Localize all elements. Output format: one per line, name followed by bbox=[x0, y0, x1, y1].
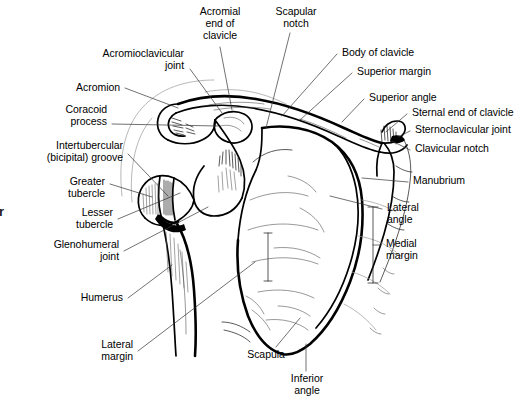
label-humerus: Humerus bbox=[81, 292, 123, 304]
label-sternal-end-of-clavicle: Sternal end of clavicle bbox=[412, 107, 514, 119]
label-scapula: Scapula bbox=[247, 349, 285, 361]
lateral-margin-bracket bbox=[264, 233, 272, 281]
leader-body-of-clavicle bbox=[282, 54, 337, 116]
scapula-inferior-detail bbox=[222, 296, 270, 342]
label-inferior-angle: Inferior angle bbox=[291, 373, 323, 397]
label-acromion: Acromion bbox=[76, 82, 120, 94]
leader-coracoid-process bbox=[112, 124, 218, 126]
surgical-neck-dark-band bbox=[155, 214, 186, 232]
shoulder-girdle-illustration: .ol { fill:none; stroke:#000; stroke-wid… bbox=[0, 0, 531, 403]
label-sternoclavicular-joint: Sternoclavicular joint bbox=[415, 124, 511, 136]
label-clavicular-notch: Clavicular notch bbox=[415, 143, 489, 155]
greater-tubercle-shading bbox=[143, 183, 158, 214]
scapular-spine-and-glenoid bbox=[193, 120, 244, 216]
manubrium-and-sternum bbox=[368, 126, 412, 334]
label-lateral-margin: Lateral margin bbox=[101, 339, 133, 363]
leader-lesser-tubercle bbox=[118, 193, 180, 219]
label-acromioclavicular-joint: Acromioclavicular joint bbox=[103, 48, 184, 72]
scapula-body bbox=[237, 127, 362, 355]
humerus-shaft bbox=[161, 216, 196, 356]
label-greater-tubercle: Greater tubercle bbox=[68, 176, 105, 200]
leader-superior-angle bbox=[342, 99, 364, 122]
label-superior-margin: Superior margin bbox=[357, 66, 431, 78]
humeral-head-and-tubercles bbox=[138, 176, 194, 226]
leader-lines bbox=[110, 33, 410, 371]
label-scapular-notch: Scapular notch bbox=[275, 6, 316, 30]
figure-corner-mark: r bbox=[0, 204, 4, 219]
anatomical-figure: .ol { fill:none; stroke:#000; stroke-wid… bbox=[0, 0, 531, 403]
label-lesser-tubercle: Lesser tubercle bbox=[76, 207, 113, 231]
leader-manubrium bbox=[362, 178, 408, 182]
intertubercular-groove-hatching bbox=[164, 180, 172, 215]
leader-humerus bbox=[128, 265, 172, 298]
leader-acromion bbox=[125, 88, 178, 108]
acromioclavicular-hatching bbox=[172, 118, 195, 135]
glenoid-shading bbox=[218, 168, 236, 192]
label-superior-angle: Superior angle bbox=[369, 92, 437, 104]
label-coracoid-process: Coracoid process bbox=[65, 104, 107, 128]
leader-acromial-end-of-clavicle bbox=[220, 47, 232, 110]
label-glenohumeral-joint: Glenohumeral joint bbox=[54, 239, 119, 263]
label-intertubercular-groove: Intertubercular (bicipital) groove bbox=[47, 140, 123, 164]
label-medial-margin: Medial margin bbox=[386, 238, 418, 262]
label-body-of-clavicle: Body of clavicle bbox=[342, 47, 414, 59]
label-acromial-end-of-clavicle: Acromial end of clavicle bbox=[200, 6, 240, 41]
leader-superior-margin bbox=[300, 73, 352, 120]
leader-scapula bbox=[276, 318, 300, 347]
label-manubrium: Manubrium bbox=[413, 175, 465, 187]
label-lateral-angle: Lateral angle bbox=[387, 202, 419, 226]
